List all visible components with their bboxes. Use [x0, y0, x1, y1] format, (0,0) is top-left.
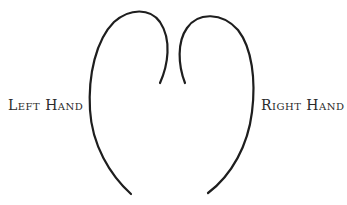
right-hand-curve — [180, 16, 254, 193]
left-hand-curve — [90, 12, 168, 195]
diagram-canvas: Left Hand Right Hand — [0, 0, 347, 205]
right-hand-label: Right Hand — [261, 97, 345, 113]
left-hand-label: Left Hand — [8, 97, 83, 113]
